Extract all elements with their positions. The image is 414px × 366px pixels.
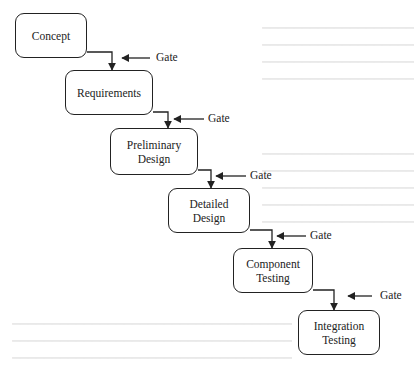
stage-label: Preliminary Design <box>127 138 181 166</box>
flow-arrow-preliminary-design-to-detailed-design <box>198 170 211 188</box>
flow-arrow-concept-to-requirements <box>87 52 112 70</box>
gate-label: Gate <box>310 229 332 241</box>
gate-label: Gate <box>380 289 402 301</box>
gate-label: Gate <box>250 169 272 181</box>
stage-label: Integration Testing <box>314 319 364 347</box>
stage-box-detailed-design: Detailed Design <box>168 188 250 233</box>
stage-box-concept: Concept <box>15 13 87 58</box>
stage-box-requirements: Requirements <box>65 70 153 115</box>
flow-arrow-requirements-to-preliminary-design <box>153 112 168 128</box>
flow-arrow-component-testing-to-integration-testing <box>313 290 334 310</box>
stage-box-component-testing: Component Testing <box>233 248 313 293</box>
stage-box-integration-testing: Integration Testing <box>298 310 380 355</box>
gate-label: Gate <box>208 112 230 124</box>
stage-label: Detailed Design <box>190 197 229 225</box>
flow-arrow-detailed-design-to-component-testing <box>250 230 272 248</box>
diagram-canvas: ▁▁▁▁▁▁▁▁▁▁▁▁▁▁▁▁▁▁▁▁▁▁▁▁▁▁▁▁▁▁▁▁▁▁▁▁▁▁▁▁… <box>0 0 414 366</box>
stage-box-preliminary-design: Preliminary Design <box>110 128 198 175</box>
stage-label: Requirements <box>77 86 141 100</box>
stage-label: Component Testing <box>246 257 300 285</box>
gate-label: Gate <box>156 51 178 63</box>
stage-label: Concept <box>32 29 70 43</box>
